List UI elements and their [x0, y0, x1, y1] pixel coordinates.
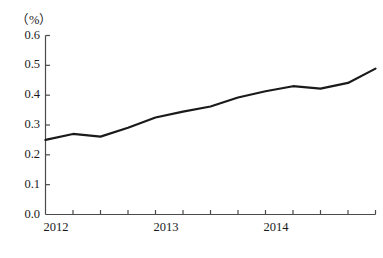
y-axis-tick-label: 0.4: [6, 87, 40, 102]
y-axis-tick-label: 0.0: [6, 207, 40, 222]
y-axis-tick-label: 0.2: [6, 147, 40, 162]
x-axis-tick-label: 2013: [154, 220, 179, 235]
data-series-line: [46, 69, 376, 140]
line-chart: （%） 0.60.50.40.30.20.10.0 201220132014: [0, 0, 383, 258]
x-axis-tick-label: 2014: [264, 220, 289, 235]
chart-axes: [46, 36, 376, 215]
y-axis-ticks: [46, 36, 51, 185]
y-axis-tick-label: 0.1: [6, 177, 40, 192]
y-axis-tick-label: 0.5: [6, 57, 40, 72]
y-axis-tick-label: 0.6: [6, 28, 40, 43]
y-axis-tick-label: 0.3: [6, 117, 40, 132]
x-axis-ticks: [73, 210, 376, 215]
x-axis-tick-label: 2012: [44, 220, 69, 235]
